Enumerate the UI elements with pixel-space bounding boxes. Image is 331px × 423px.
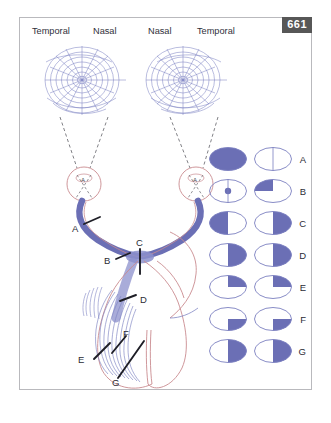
defect-row-letter: A: [300, 154, 306, 165]
defect-row-letter: D: [299, 250, 306, 261]
defect-eye-pair: [208, 146, 293, 172]
defect-row-letter: G: [299, 346, 306, 357]
left-eye-field-left-half: [208, 210, 248, 236]
left-eye-field-right-half: [208, 338, 248, 364]
right-eye-field-none: [253, 146, 293, 172]
right-eye-field-upper-left: [253, 178, 293, 204]
lesion-label-c: C: [136, 238, 143, 248]
defect-row: E: [208, 271, 308, 303]
defect-eye-pair: [208, 306, 293, 332]
lesion-label-f: F: [123, 329, 129, 339]
right-eye-field-upper-right: [253, 274, 293, 300]
figure-frame: 661 Temporal Nasal Nasal Temporal: [19, 17, 312, 390]
lesion-label-g: G: [112, 378, 119, 388]
defect-row: C: [208, 207, 308, 239]
defect-row: G: [208, 335, 308, 367]
lesion-label-a: A: [72, 224, 78, 234]
defect-row-letter: C: [299, 218, 306, 229]
svg-text:A: A: [193, 177, 197, 183]
right-eye-field-right-half: [253, 242, 293, 268]
visual-field-defect-table: ABCDEFG: [208, 143, 308, 367]
svg-text:A: A: [81, 177, 85, 183]
left-eye-field-central-scotoma: [208, 178, 248, 204]
defect-row: D: [208, 239, 308, 271]
right-eye-field-right-half: [253, 338, 293, 364]
left-eye-field-full: [208, 146, 248, 172]
lesion-label-d: D: [140, 295, 147, 305]
defect-row-letter: E: [300, 282, 306, 293]
left-eye-field-upper-right: [208, 274, 248, 300]
defect-row: A: [208, 143, 308, 175]
defect-row: F: [208, 303, 308, 335]
lesion-label-e: E: [78, 355, 84, 365]
defect-eye-pair: [208, 242, 293, 268]
defect-eye-pair: [208, 274, 293, 300]
defect-row: B: [208, 175, 308, 207]
defect-eye-pair: [208, 178, 293, 204]
defect-eye-pair: [208, 210, 293, 236]
right-eye-field-right-half: [253, 210, 293, 236]
left-eye-field-right-half: [208, 242, 248, 268]
right-eye-field-lower-right: [253, 306, 293, 332]
left-eye-field-lower-right: [208, 306, 248, 332]
defect-row-letter: B: [300, 186, 306, 197]
defect-row-letter: F: [300, 314, 306, 325]
lesion-label-b: B: [104, 256, 110, 266]
defect-eye-pair: [208, 338, 293, 364]
